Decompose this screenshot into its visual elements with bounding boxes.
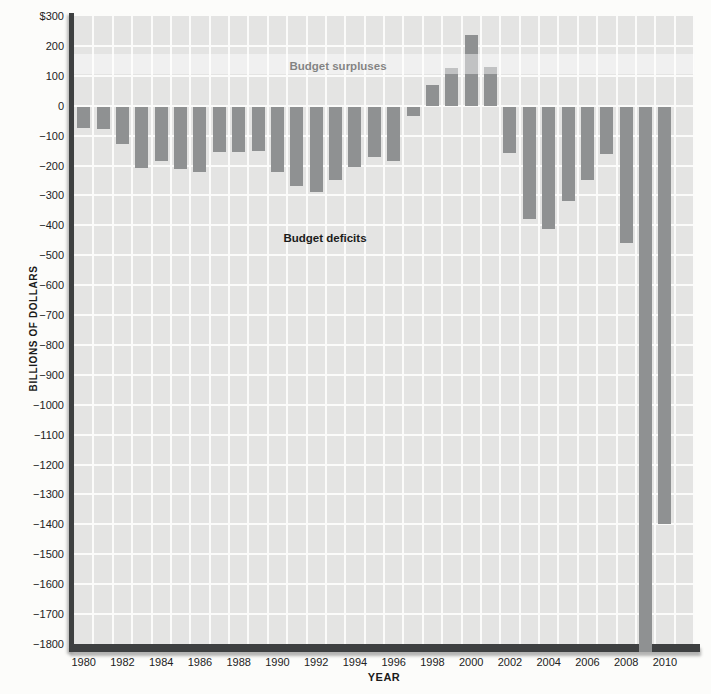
bar-2002 — [503, 107, 516, 153]
y-tick-label: $300 — [0, 10, 64, 22]
y-tick-label: −800 — [0, 339, 64, 351]
deficit-annotation: Budget deficits — [283, 232, 366, 244]
y-tick-label: −400 — [0, 219, 64, 231]
gridline-vertical — [557, 16, 559, 644]
y-tick-label: −100 — [0, 130, 64, 142]
bar-1982 — [116, 107, 129, 144]
y-tick-label: −1100 — [0, 429, 64, 441]
gridline-vertical — [422, 16, 424, 644]
y-tick-label: −1400 — [0, 518, 64, 530]
gridline-vertical — [209, 16, 211, 644]
bar-1986 — [193, 107, 206, 172]
bar-2003 — [523, 107, 536, 219]
gridline-vertical — [325, 16, 327, 644]
x-tick-label: 2008 — [606, 656, 646, 668]
bar-1990 — [271, 107, 284, 172]
y-tick-label: −1700 — [0, 608, 64, 620]
gridline-vertical — [364, 16, 366, 644]
bar-1996 — [387, 107, 400, 161]
y-tick-label: −1500 — [0, 548, 64, 560]
bar-2008 — [620, 107, 633, 243]
y-tick-label: 0 — [0, 100, 64, 112]
x-tick-label: 1980 — [64, 656, 104, 668]
x-tick-label: 1994 — [335, 656, 375, 668]
bar-2010 — [658, 107, 671, 525]
bar-1991 — [290, 107, 303, 186]
y-tick-label: 200 — [0, 40, 64, 52]
bar-2001 — [484, 67, 497, 105]
y-tick-label: 100 — [0, 70, 64, 82]
bar-1984 — [155, 107, 168, 161]
gridline-vertical — [267, 16, 269, 644]
y-tick-label: −900 — [0, 369, 64, 381]
gridline-vertical — [344, 16, 346, 644]
bar-1981 — [97, 107, 110, 130]
x-tick-label: 2010 — [645, 656, 685, 668]
y-tick-label: −500 — [0, 249, 64, 261]
bar-1999 — [445, 68, 458, 106]
bar-2004 — [542, 107, 555, 230]
budget-deficit-chart: BILLIONS OF DOLLARS Budget surpluses Bud… — [0, 0, 711, 694]
bar-1992 — [310, 107, 323, 193]
gridline-vertical — [189, 16, 191, 644]
gridline-vertical — [693, 16, 695, 644]
gridline-vertical — [131, 16, 133, 644]
y-tick-label: −1600 — [0, 578, 64, 590]
x-tick-label: 1998 — [412, 656, 452, 668]
x-tick-label: 1990 — [257, 656, 297, 668]
bar-2005 — [562, 107, 575, 201]
y-tick-label: −1800 — [0, 638, 64, 650]
y-tick-label: −1000 — [0, 399, 64, 411]
y-axis-line — [69, 13, 74, 652]
plot-area: Budget surpluses Budget deficits — [74, 16, 694, 644]
bar-1989 — [252, 107, 265, 151]
gridline-vertical — [577, 16, 579, 644]
bar-1985 — [174, 107, 187, 169]
gridline-vertical — [112, 16, 114, 644]
surplus-annotation: Budget surpluses — [289, 60, 386, 72]
bar-1980 — [77, 107, 90, 128]
x-tick-label: 2004 — [529, 656, 569, 668]
gridline-vertical — [228, 16, 230, 644]
gridline-vertical — [674, 16, 676, 644]
gridline-vertical — [538, 16, 540, 644]
x-axis-title: YEAR — [368, 671, 401, 683]
gridline-vertical — [286, 16, 288, 644]
bar-1993 — [329, 107, 342, 181]
gridline-vertical — [654, 16, 656, 644]
x-tick-label: 1996 — [374, 656, 414, 668]
bar-2000 — [465, 35, 478, 106]
gridline-vertical — [596, 16, 598, 644]
x-tick-label: 1986 — [180, 656, 220, 668]
gridline-vertical — [170, 16, 172, 644]
gridline-vertical — [151, 16, 153, 644]
x-axis-line — [69, 644, 700, 652]
gridline-vertical — [306, 16, 308, 644]
x-tick-label: 2000 — [451, 656, 491, 668]
bar-2009 — [639, 107, 652, 652]
bar-1997 — [407, 107, 420, 116]
x-tick-label: 1992 — [296, 656, 336, 668]
y-tick-label: −1200 — [0, 459, 64, 471]
gridline-vertical — [402, 16, 404, 644]
bar-2006 — [581, 107, 594, 180]
gridline-vertical — [461, 16, 463, 644]
gridline-vertical — [92, 16, 94, 644]
y-tick-label: −300 — [0, 189, 64, 201]
gridline-vertical — [499, 16, 501, 644]
gridline-vertical — [247, 16, 249, 644]
y-tick-label: −600 — [0, 279, 64, 291]
x-tick-label: 1984 — [141, 656, 181, 668]
y-tick-label: −200 — [0, 160, 64, 172]
bar-1983 — [135, 107, 148, 168]
gridline-vertical — [519, 16, 521, 644]
gridline-vertical — [635, 16, 637, 644]
x-tick-label: 1982 — [102, 656, 142, 668]
gridline-vertical — [480, 16, 482, 644]
bar-1995 — [368, 107, 381, 157]
bar-1994 — [348, 107, 361, 167]
bar-2007 — [600, 107, 613, 154]
gridline-vertical — [441, 16, 443, 644]
x-tick-label: 1988 — [219, 656, 259, 668]
gridline-vertical — [616, 16, 618, 644]
